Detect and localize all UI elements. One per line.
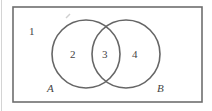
pencil-mark [66, 14, 70, 18]
venn-svg: 1 2 3 4 A B [0, 0, 212, 111]
set-b-label: B [157, 82, 164, 94]
universe-rectangle [13, 7, 202, 102]
set-a-label: A [46, 82, 54, 94]
region-3-label: 3 [102, 48, 108, 60]
region-1-label: 1 [29, 25, 35, 37]
region-2-label: 2 [70, 48, 76, 60]
set-a-circle [52, 20, 120, 88]
venn-diagram: 1 2 3 4 A B [0, 0, 212, 111]
region-4-label: 4 [132, 48, 138, 60]
